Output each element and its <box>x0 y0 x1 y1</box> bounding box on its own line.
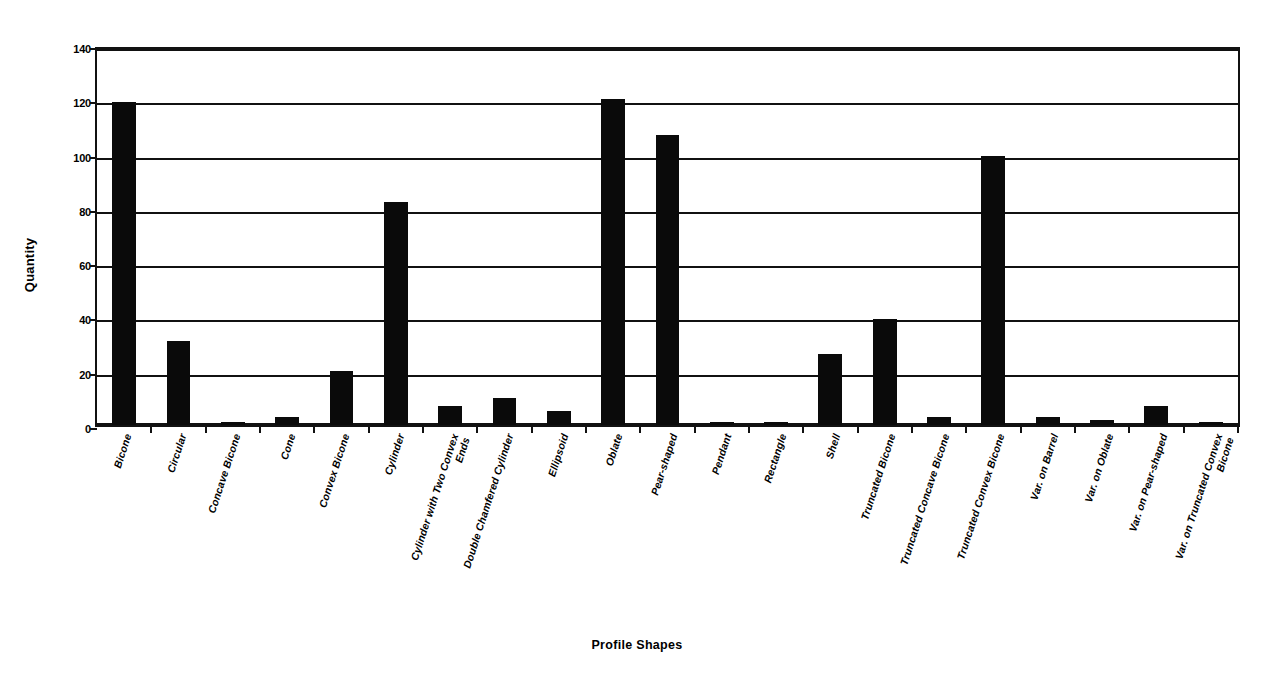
x-axis-tick-labels: BiconeCircularConcave BiconeConeConvex B… <box>95 430 1240 630</box>
x-label-slot: Concave Bicone <box>204 430 259 630</box>
y-tick-label: 20 <box>57 369 91 381</box>
bar[interactable] <box>927 417 951 425</box>
x-label-slot: Var. on Barrel <box>1022 430 1077 630</box>
x-label-slot: Cylinder <box>368 430 423 630</box>
bar[interactable] <box>493 398 517 425</box>
x-label-slot: Pear-shaped <box>640 430 695 630</box>
x-tick-mark <box>531 425 533 433</box>
x-label-slot: Var. on Pear-shaped <box>1131 430 1186 630</box>
bar[interactable] <box>656 135 680 425</box>
bar-slot <box>912 49 966 425</box>
y-tick-label: 140 <box>57 43 91 55</box>
bar-slot <box>1021 49 1075 425</box>
bar[interactable] <box>601 99 625 425</box>
bar[interactable] <box>764 422 788 425</box>
x-label-slot: Truncated Bicone <box>858 430 913 630</box>
x-tick-label: Rectangle <box>761 432 788 484</box>
bar[interactable] <box>547 411 571 425</box>
y-tick-mark <box>90 157 97 159</box>
x-tick-mark <box>911 425 913 433</box>
x-tick-label: Circular <box>164 432 188 474</box>
x-label-slot: Truncated Convex Bicone <box>968 430 1023 630</box>
bar-slot <box>151 49 205 425</box>
x-label-slot: Var. on Truncated Convex Bicone <box>1186 430 1241 630</box>
x-tick-mark <box>857 425 859 433</box>
bar[interactable] <box>221 422 245 425</box>
bar-slot <box>966 49 1020 425</box>
bar-slot <box>1075 49 1129 425</box>
x-tick-mark <box>368 425 370 433</box>
x-tick-label: Cone <box>278 432 298 461</box>
y-tick-label: 0 <box>57 423 91 435</box>
x-label-slot: Bicone <box>95 430 150 630</box>
x-tick-mark <box>1128 425 1130 433</box>
x-label-slot: Cylinder with Two Convex Ends <box>422 430 477 630</box>
bar[interactable] <box>873 319 897 425</box>
x-label-slot: Convex Bicone <box>313 430 368 630</box>
x-tick-label: Bicone <box>111 432 133 470</box>
bar[interactable] <box>384 202 408 425</box>
x-tick-mark <box>965 425 967 433</box>
x-tick-label: Shell <box>823 432 842 460</box>
bar[interactable] <box>275 417 299 425</box>
x-tick-mark <box>639 425 641 433</box>
x-label-slot: Var. on Oblate <box>1077 430 1132 630</box>
x-tick-label: Var. on Barrel <box>1028 432 1061 502</box>
bar[interactable] <box>167 341 191 425</box>
y-tick-mark <box>90 102 97 104</box>
x-tick-label: Oblate <box>603 432 625 467</box>
x-tick-label: Cylinder <box>382 432 407 476</box>
x-tick-label: Pear-shaped <box>648 432 679 497</box>
bar[interactable] <box>710 422 734 425</box>
bar[interactable] <box>438 406 462 425</box>
bar-slot <box>586 49 640 425</box>
bar[interactable] <box>330 371 354 425</box>
x-label-slot: Double Chamfered Cylinder <box>477 430 532 630</box>
x-tick-mark <box>585 425 587 433</box>
bar[interactable] <box>112 102 136 425</box>
bar-slot <box>477 49 531 425</box>
bar-slot <box>1184 49 1238 425</box>
bar-slot <box>532 49 586 425</box>
x-tick-mark <box>313 425 315 433</box>
y-tick-mark <box>90 374 97 376</box>
x-label-slot: Pendant <box>695 430 750 630</box>
y-tick-label: 60 <box>57 260 91 272</box>
bar-slot <box>1129 49 1183 425</box>
bar-series <box>97 49 1238 425</box>
x-label-slot: Shell <box>804 430 859 630</box>
bar-slot <box>423 49 477 425</box>
y-tick-mark <box>90 265 97 267</box>
x-tick-mark <box>259 425 261 433</box>
x-label-slot: Ellipsoid <box>531 430 586 630</box>
y-tick-mark <box>90 319 97 321</box>
bar[interactable] <box>1144 406 1168 425</box>
x-tick-mark <box>748 425 750 433</box>
y-tick-label: 120 <box>57 97 91 109</box>
x-tick-label: Var. on Oblate <box>1082 432 1116 504</box>
bar-chart: Quantity 020406080100120140 BiconeCircul… <box>0 0 1274 698</box>
x-tick-mark <box>150 425 152 433</box>
y-axis-title: Quantity <box>22 195 37 335</box>
bar[interactable] <box>1036 417 1060 425</box>
x-tick-mark <box>205 425 207 433</box>
y-tick-label: 80 <box>57 206 91 218</box>
x-axis-title: Profile Shapes <box>0 638 1274 652</box>
x-tick-mark <box>1183 425 1185 433</box>
y-tick-label: 100 <box>57 152 91 164</box>
x-label-slot: Circular <box>150 430 205 630</box>
bar[interactable] <box>1090 420 1114 425</box>
bar-slot <box>749 49 803 425</box>
bar-slot <box>369 49 423 425</box>
x-tick-label: Pendant <box>709 432 733 476</box>
bar[interactable] <box>981 156 1005 425</box>
y-tick-mark <box>90 211 97 213</box>
x-label-slot: Cone <box>259 430 314 630</box>
y-tick-mark <box>90 48 97 50</box>
bar[interactable] <box>1199 422 1223 425</box>
x-tick-mark <box>476 425 478 433</box>
x-tick-mark <box>1237 425 1239 433</box>
plot-area: 020406080100120140 <box>95 47 1240 427</box>
bar-slot <box>695 49 749 425</box>
bar[interactable] <box>818 354 842 425</box>
